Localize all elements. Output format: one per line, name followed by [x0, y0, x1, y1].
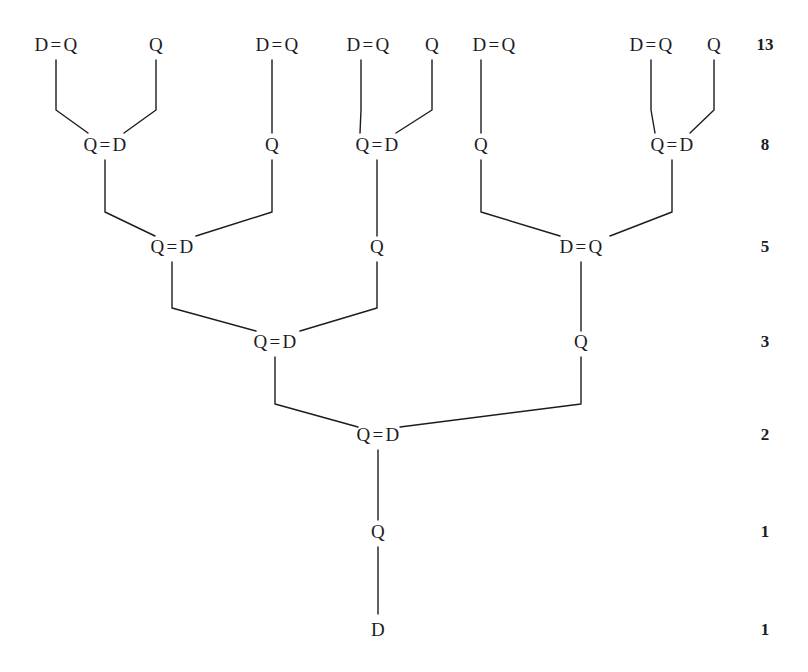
tree-node: Q [474, 135, 488, 154]
tree-node: D=Q [35, 35, 78, 54]
tree-edge [690, 60, 714, 133]
tree-node: Q [265, 135, 279, 154]
tree-edge [396, 60, 432, 133]
tree-edge [300, 262, 377, 331]
tree-edge [275, 357, 358, 427]
fibonacci-tree-diagram: D=QQD=QD=QQD=QD=QQQ=DQQ=DQQ=DQ=DQD=QQ=DQ… [0, 0, 808, 672]
generation-count: 8 [761, 136, 770, 153]
tree-node: D=Q [347, 35, 390, 54]
tree-edge [124, 60, 156, 133]
tree-node: Q [371, 522, 385, 541]
tree-node: Q=D [254, 332, 297, 351]
generation-count: 2 [761, 426, 770, 443]
tree-edge [56, 60, 88, 133]
tree-edge [481, 160, 560, 236]
tree-node: Q=D [84, 135, 127, 154]
tree-node: Q [425, 35, 439, 54]
tree-node: D [371, 620, 385, 639]
tree-node: Q=D [651, 135, 694, 154]
tree-node: Q=D [357, 425, 400, 444]
tree-node: D=Q [630, 35, 673, 54]
tree-node: Q [370, 237, 384, 256]
tree-node: Q [574, 332, 588, 351]
generation-count: 5 [761, 238, 770, 255]
tree-node: Q [149, 35, 163, 54]
generation-count: 1 [761, 621, 770, 638]
tree-node: Q=D [356, 135, 399, 154]
tree-node: D=Q [560, 237, 603, 256]
tree-node: D=Q [473, 35, 516, 54]
tree-edge [196, 160, 272, 236]
tree-edge [651, 60, 655, 133]
tree-node: Q=D [151, 237, 194, 256]
generation-count: 1 [761, 523, 770, 540]
generation-count: 13 [757, 36, 774, 53]
generation-count: 3 [761, 333, 770, 350]
tree-edge [360, 60, 361, 133]
tree-edge [400, 357, 581, 427]
tree-edge [610, 160, 672, 236]
tree-edge [105, 160, 155, 236]
tree-edge [172, 262, 256, 331]
tree-node: Q [707, 35, 721, 54]
tree-edges [0, 0, 808, 672]
tree-node: D=Q [256, 35, 299, 54]
